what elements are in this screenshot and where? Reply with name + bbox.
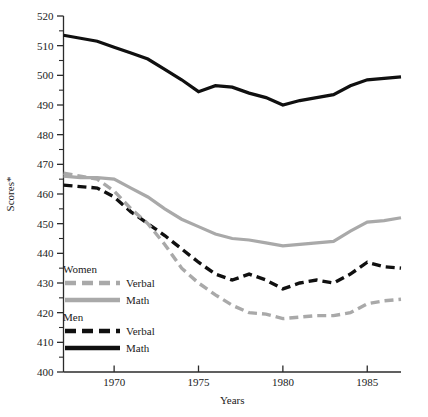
legend-group-heading: Men <box>63 311 84 323</box>
y-axis-title: Scores* <box>4 177 16 212</box>
x-axis-tick-label: 1975 <box>188 376 211 388</box>
y-axis-tick-label: 510 <box>37 40 54 52</box>
x-axis-tick-label: 1985 <box>356 376 379 388</box>
y-axis-tick-label: 470 <box>37 158 54 170</box>
x-axis-tick-label: 1970 <box>103 376 126 388</box>
legend-group-heading: Women <box>63 263 97 275</box>
y-axis-tick-label: 460 <box>37 188 54 200</box>
legend-entry-label: Verbal <box>126 277 155 289</box>
legend-entry-label: Math <box>126 342 150 354</box>
y-axis-tick-label: 410 <box>37 336 54 348</box>
sat-scores-line-chart: 400410420430440450460470480490500510520 … <box>0 0 428 417</box>
y-axis-tick-label: 420 <box>37 307 54 319</box>
y-axis-tick-label: 440 <box>37 247 54 259</box>
x-axis-title: Years <box>220 394 245 406</box>
chart-root: 400410420430440450460470480490500510520 … <box>0 0 428 417</box>
y-axis-tick-label: 520 <box>37 10 54 22</box>
chart-background <box>0 0 428 417</box>
y-axis-tick-label: 400 <box>37 366 54 378</box>
y-axis-tick-label: 430 <box>37 277 54 289</box>
y-axis-tick-label: 500 <box>37 69 54 81</box>
x-axis-tick-label: 1980 <box>272 376 295 388</box>
y-axis-tick-label: 490 <box>37 99 54 111</box>
legend-entry-label: Math <box>126 294 150 306</box>
y-axis-tick-label: 450 <box>37 218 54 230</box>
y-axis-tick-label: 480 <box>37 129 54 141</box>
legend-entry-label: Verbal <box>126 325 155 337</box>
